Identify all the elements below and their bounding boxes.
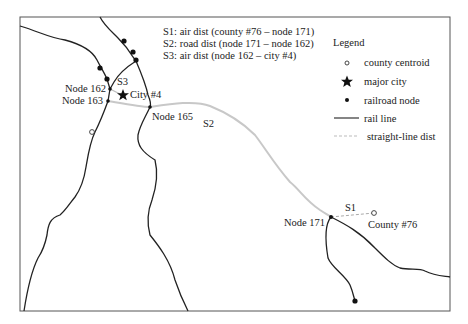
annotation-s2: S2: road dist (node 171 – node 162) [163, 38, 314, 50]
legend-major-city-star-icon [341, 76, 353, 87]
label-county-76: County #76 [368, 219, 417, 230]
legend-label-major-city: major city [364, 76, 408, 87]
annotation-s3: S3: air dist (node 162 – city #4) [163, 50, 297, 62]
route-s2 [108, 101, 331, 217]
label-node-162: Node 162 [65, 83, 106, 94]
county-76-centroid-icon [372, 211, 377, 216]
legend-label-rail-line: rail line [364, 113, 397, 124]
annotation-s1: S1: air dist (county #76 – node 171) [163, 26, 315, 38]
legend-label-railroad-node: railroad node [364, 95, 420, 106]
label-node-165: Node 165 [152, 111, 193, 122]
label-s1: S1 [345, 202, 356, 213]
legend-railroad-node-icon [345, 98, 349, 102]
label-node-163: Node 163 [62, 95, 103, 106]
map-diagram: Node 162 Node 163 S3 City #4 Node 165 S2… [0, 0, 468, 324]
legend-title: Legend [333, 37, 365, 48]
label-node-171: Node 171 [284, 217, 325, 228]
railroad-nodes [97, 38, 357, 303]
county-centroid-icon [90, 130, 95, 135]
label-s3: S3 [117, 76, 128, 87]
label-city-4: City #4 [130, 89, 162, 100]
legend-county-centroid-icon [345, 61, 349, 65]
legend-label-straight-line-dist: straight-line dist [367, 131, 436, 142]
legend: Legend county centroid major city railro… [333, 37, 436, 142]
route-s1 [331, 213, 374, 217]
legend-label-county-centroid: county centroid [364, 57, 430, 68]
city-4-star-icon [117, 89, 129, 100]
label-s2: S2 [203, 118, 214, 129]
